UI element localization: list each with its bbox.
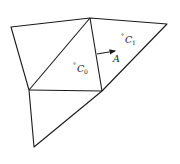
mesh-diagram: ° C 0 ° C 1 A <box>0 0 180 164</box>
edge-topcenter-leftmid <box>29 18 90 90</box>
edge-shared-face-c0-c1 <box>90 18 102 91</box>
cell-label-c1: ° C 1 <box>121 32 136 46</box>
mesh-svg: ° C 0 ° C 1 A <box>0 0 180 164</box>
edge-leftmid-centerright <box>29 90 102 91</box>
mesh-outline <box>11 18 167 147</box>
cell-label-c0: ° C 0 <box>73 61 88 75</box>
svg-text:1: 1 <box>132 39 136 46</box>
face-label-a: A <box>112 53 120 64</box>
svg-text:°: ° <box>73 61 76 68</box>
svg-text:0: 0 <box>84 68 88 75</box>
svg-text:°: ° <box>121 32 124 39</box>
